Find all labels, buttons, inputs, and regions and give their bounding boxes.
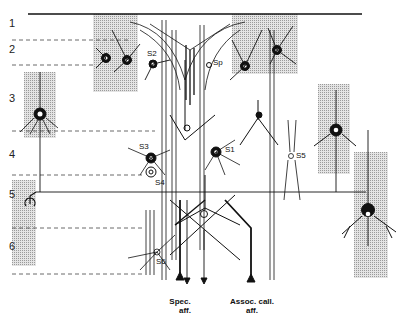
layer-label-6: 6 (9, 240, 15, 252)
cell-s5 (284, 120, 300, 200)
cell-label-s2: S2 (147, 49, 157, 58)
layer-label-2: 2 (9, 43, 15, 55)
cell-label-s6: S6 (156, 257, 166, 266)
associative-afferent-line1: Assoc. call. (226, 297, 278, 306)
layer-label-3: 3 (9, 92, 15, 104)
cortex-diagram: 1 2 3 4 5 6 S2 Sp S3 S1 S5 S4 S6 Spec. a… (0, 0, 412, 325)
cell-sp (207, 63, 212, 68)
cells-layer4 (128, 100, 278, 177)
specific-afferent-label: Spec. aff. (160, 297, 200, 315)
layer-label-4: 4 (9, 148, 15, 160)
fiber-bundle (186, 45, 194, 105)
layer-label-1: 1 (9, 17, 15, 29)
specific-afferent-line1: Spec. (160, 297, 200, 306)
diagram-drawing (0, 0, 412, 325)
cell-label-sp: Sp (213, 58, 223, 67)
layer-label-5: 5 (9, 188, 15, 200)
cell-label-s3: S3 (139, 142, 149, 151)
associative-afferent-line2: aff. (226, 306, 278, 315)
cell-label-s1: S1 (225, 145, 235, 154)
cell-s6 (128, 210, 175, 275)
specific-afferent-line2: aff. (160, 306, 200, 315)
associative-afferent-label: Assoc. call. aff. (226, 297, 278, 315)
cell-label-s4: S4 (155, 178, 165, 187)
cell-label-s5: S5 (296, 151, 306, 160)
